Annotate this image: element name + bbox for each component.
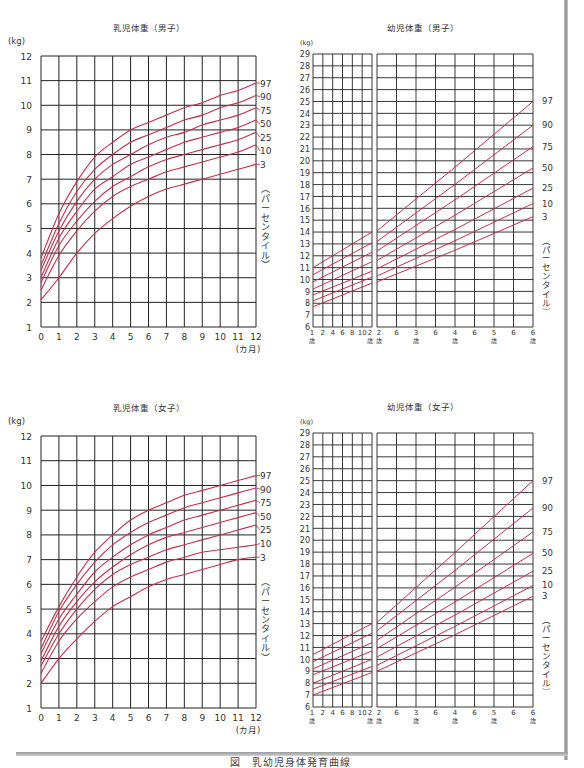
x-tick-label: 1 (56, 332, 62, 342)
y-tick-label: 17 (300, 572, 310, 581)
y-tick-label: 9 (26, 125, 32, 135)
chart-title: 乳児体重（男子） (113, 23, 185, 33)
x-tick-label: 8 (350, 329, 354, 337)
x-tick-label: 4 (330, 709, 335, 717)
y-tick-label: 14 (300, 608, 310, 617)
y-tick-label: 8 (305, 679, 310, 688)
x-unit-label: (カ月) (236, 725, 261, 735)
y-tick-label: 7 (305, 691, 310, 700)
x-tick-label: 12 (250, 332, 261, 342)
x-tick-year-label: 歳 (530, 717, 536, 724)
x-tick-label: 12 (250, 713, 261, 723)
chart-toddler-girls: 幼児体重（女子）(kg)6789101112131415161718192021… (300, 402, 553, 724)
x-tick-label: 3 (414, 709, 418, 717)
x-tick-label: 6 (146, 332, 152, 342)
x-tick-year-label: 歳 (530, 337, 536, 344)
x-tick-label: 9 (199, 713, 205, 723)
y-tick-label: 22 (300, 513, 310, 522)
y-tick-label: 12 (21, 432, 32, 442)
y-tick-label: 10 (300, 276, 310, 285)
percentile-axis-label: ︵パーセンタイル︶ (261, 184, 270, 270)
percentile-label-50: 50 (542, 163, 553, 173)
chart-title: 乳児体重（女子） (113, 403, 185, 413)
y-tick-label: 17 (300, 193, 310, 202)
percentile-label-75: 75 (260, 498, 271, 508)
x-tick-label: 2 (74, 713, 80, 723)
y-tick-label: 20 (300, 536, 310, 545)
y-tick-label: 27 (300, 453, 310, 462)
percentile-axis-label: ︵パーセンタイル︶ (261, 577, 270, 663)
percentile-label-50: 50 (542, 548, 553, 558)
x-tick-label: 8 (181, 713, 187, 723)
percentile-label-50: 50 (260, 512, 272, 522)
x-tick-label: 9 (199, 332, 205, 342)
y-tick-label: 1 (26, 704, 32, 714)
x-tick-year-label: 歳 (491, 337, 497, 344)
y-tick-label: 26 (300, 465, 310, 474)
x-tick-label: 3 (92, 332, 98, 342)
x-tick-label: 2 (74, 332, 80, 342)
x-tick-label: 6 (472, 709, 477, 717)
x-tick-year-label: 歳 (309, 337, 315, 344)
page-shadow-right (564, 0, 568, 760)
x-tick-label: 1 (56, 713, 62, 723)
x-tick-label: 6 (394, 709, 399, 717)
y-tick-label: 16 (300, 584, 310, 593)
x-tick-label: 6 (531, 709, 536, 717)
y-tick-label: 7 (26, 175, 32, 185)
y-tick-label: 29 (300, 429, 310, 438)
y-tick-label: 9 (26, 506, 32, 516)
x-tick-label: 0 (38, 713, 44, 723)
y-tick-label: 5 (26, 224, 32, 234)
x-tick-label: 4 (453, 329, 458, 337)
y-tick-label: 6 (26, 580, 32, 590)
percentile-label-75: 75 (542, 142, 553, 152)
x-tick-label: 5 (128, 713, 134, 723)
percentile-label-3: 3 (260, 553, 266, 563)
y-tick-label: 18 (300, 560, 310, 569)
x-tick-label: 3 (414, 329, 418, 337)
y-tick-label: 13 (300, 240, 310, 249)
growth-chart-page: 乳児体重（男子）(kg)1234567891011120123456789101… (0, 0, 584, 768)
y-tick-label: 21 (300, 525, 310, 534)
percentile-axis-label: ︵パーセンタイル︶ (542, 236, 551, 317)
percentile-label-90: 90 (542, 120, 553, 130)
y-tick-label: 6 (26, 199, 32, 209)
y-tick-label: 27 (300, 74, 310, 83)
x-tick-label: 4 (330, 329, 335, 337)
y-tick-label: 7 (305, 311, 310, 320)
percentile-label-90: 90 (260, 485, 272, 495)
percentile-label-3: 3 (542, 591, 547, 601)
x-tick-label: 4 (110, 713, 116, 723)
x-tick-label: 5 (128, 332, 134, 342)
y-tick-label: 4 (26, 249, 32, 259)
x-tick-label: 6 (146, 713, 152, 723)
x-tick-label: 1 (310, 709, 314, 717)
y-tick-label: 22 (300, 133, 310, 142)
y-tick-label: 29 (300, 50, 310, 59)
x-tick-label: 6 (511, 709, 516, 717)
y-tick-label: 15 (300, 596, 310, 605)
x-tick-label: 2 (368, 329, 372, 337)
y-tick-label: 8 (26, 150, 32, 160)
chart-infant-boys: 乳児体重（男子）(kg)1234567891011120123456789101… (8, 23, 272, 354)
y-tick-label: 24 (300, 489, 310, 498)
x-unit-label: (カ月) (236, 344, 261, 354)
chart-toddler-boys: 幼児体重（男子）(kg)6789101112131415161718192021… (300, 23, 553, 344)
x-tick-label: 6 (531, 329, 536, 337)
x-tick-label: 8 (181, 332, 187, 342)
percentile-label-97: 97 (542, 96, 553, 106)
x-tick-label: 6 (340, 329, 345, 337)
y-unit-label: (kg) (8, 416, 25, 426)
x-tick-year-label: 歳 (367, 717, 373, 724)
y-tick-label: 12 (21, 52, 32, 62)
percentile-label-25: 25 (542, 566, 553, 576)
percentile-label-97: 97 (260, 79, 271, 89)
x-tick-label: 6 (472, 329, 477, 337)
percentile-label-10: 10 (542, 199, 553, 209)
x-tick-year-label: 歳 (452, 717, 458, 724)
x-tick-label: 11 (232, 713, 243, 723)
x-tick-year-label: 歳 (376, 337, 382, 344)
percentile-axis-label: ︵パーセンタイル︶ (542, 615, 551, 696)
x-tick-label: 6 (511, 329, 516, 337)
